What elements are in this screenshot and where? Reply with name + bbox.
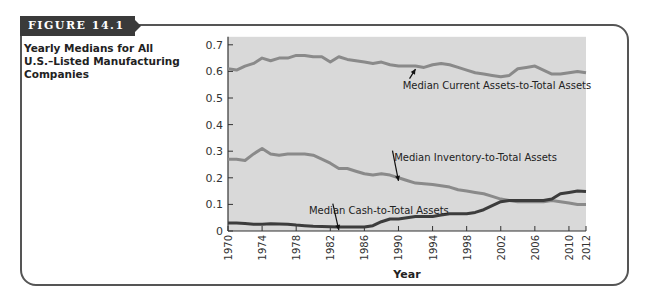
- y-tick-label: 0.6: [206, 65, 224, 78]
- x-tick-label: 2010: [564, 235, 575, 260]
- y-tick-label: 0: [216, 225, 223, 238]
- line-chart: 00.10.20.30.40.50.60.7 19701974197819821…: [0, 0, 650, 304]
- x-tick-label: 2002: [496, 235, 507, 260]
- x-tick-label: 1986: [359, 235, 370, 260]
- y-tick-label: 0.3: [206, 145, 224, 158]
- x-tick-label: 1978: [291, 235, 302, 260]
- x-tick-label: 2006: [530, 235, 541, 260]
- x-tick-label: 2012: [581, 235, 592, 260]
- x-tick-label: 1970: [223, 235, 234, 260]
- annotation-label: Median Inventory-to-Total Assets: [394, 152, 557, 163]
- annotation-label: Median Current Assets-to-Total Assets: [403, 80, 591, 91]
- x-axis-label: Year: [392, 268, 421, 281]
- y-tick-label: 0.1: [206, 198, 224, 211]
- y-tick-label: 0.2: [206, 172, 224, 185]
- annotation-label: Median Cash-to-Total Assets: [309, 205, 449, 216]
- y-tick-label: 0.4: [206, 119, 224, 132]
- x-tick-label: 1974: [257, 235, 268, 260]
- y-tick-label: 0.7: [206, 39, 224, 52]
- x-axis: 1970197419781982198619901994199820022006…: [223, 226, 592, 260]
- x-tick-label: 1998: [462, 235, 473, 260]
- x-tick-label: 1982: [325, 235, 336, 260]
- y-tick-label: 0.5: [206, 92, 224, 105]
- x-tick-label: 1990: [393, 235, 404, 260]
- x-tick-label: 1994: [428, 235, 439, 260]
